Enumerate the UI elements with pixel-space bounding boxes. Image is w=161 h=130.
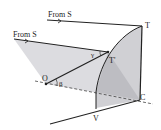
label-c: C	[140, 93, 145, 102]
label-v: V	[93, 114, 99, 123]
diagram-svg: From S From S T T' O C V γ β	[0, 0, 161, 130]
point-o-dot	[45, 83, 48, 86]
label-gamma: γ	[90, 51, 94, 59]
sun-gnomon-diagram: From S From S T T' O C V γ β	[0, 0, 161, 130]
label-from-s-mid: From S	[13, 30, 37, 39]
point-tprime-dot	[107, 51, 110, 54]
label-from-s-top: From S	[48, 10, 72, 19]
label-t: T	[145, 21, 150, 30]
label-beta: β	[59, 80, 63, 88]
label-o: O	[42, 74, 48, 83]
label-t-prime: T'	[109, 56, 116, 65]
